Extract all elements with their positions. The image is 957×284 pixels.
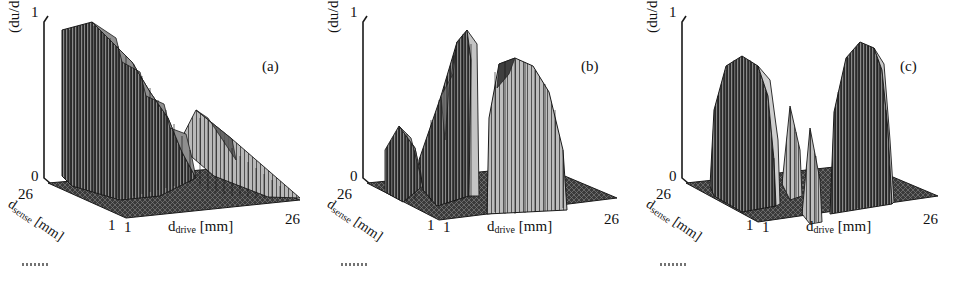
scan-artifact-mark-b bbox=[341, 263, 367, 266]
panel-a-drive-tick-left: 1 bbox=[124, 219, 132, 236]
panel-c: (du/dt)max 1 0 26 dsense [mm] 1 1 26 ddr… bbox=[638, 0, 957, 284]
scan-artifact-mark-c bbox=[660, 263, 686, 266]
scan-artifact-mark bbox=[22, 263, 48, 266]
three-panel-surface-figure: (du/dt)max 1 0 26 dsense [mm] 1 1 26 ddr… bbox=[0, 0, 957, 284]
panel-b: (du/dt)max 1 0 26 dsense [mm] 1 1 26 ddr… bbox=[319, 0, 638, 284]
panel-a-drive-axis-label: ddrive [mm] bbox=[168, 218, 233, 235]
panel-a-sense-tick-far: 1 bbox=[108, 217, 116, 234]
panel-a-surface bbox=[0, 0, 319, 284]
panel-c-surface bbox=[638, 0, 957, 284]
panel-c-drive-tick-left: 1 bbox=[762, 219, 770, 236]
panel-c-sense-tick-far: 1 bbox=[746, 217, 754, 234]
panel-a: (du/dt)max 1 0 26 dsense [mm] 1 1 26 ddr… bbox=[0, 0, 319, 284]
panel-c-drive-axis-label: ddrive [mm] bbox=[806, 218, 871, 235]
panel-a-drive-tick-right: 26 bbox=[285, 211, 300, 228]
panel-c-letter: (c) bbox=[900, 58, 917, 75]
panel-b-letter: (b) bbox=[581, 58, 599, 75]
panel-a-y-tick-min: 0 bbox=[31, 168, 39, 185]
panel-c-y-tick-min: 0 bbox=[669, 168, 677, 185]
panel-b-y-tick-max: 1 bbox=[350, 4, 358, 21]
panel-c-y-tick-max: 1 bbox=[669, 4, 677, 21]
panel-a-y-axis-label: (du/dt)max bbox=[6, 0, 23, 58]
panel-b-drive-tick-right: 26 bbox=[604, 211, 619, 228]
panel-b-drive-tick-left: 1 bbox=[443, 219, 451, 236]
panel-a-letter: (a) bbox=[262, 58, 279, 75]
panel-b-drive-axis-label: ddrive [mm] bbox=[487, 218, 552, 235]
panel-b-sense-tick-far: 1 bbox=[427, 217, 435, 234]
panel-a-y-tick-max: 1 bbox=[31, 4, 39, 21]
panel-c-y-axis-label: (du/dt)max bbox=[644, 0, 661, 58]
panel-b-surface bbox=[319, 0, 638, 284]
panel-b-y-tick-min: 0 bbox=[350, 168, 358, 185]
panel-b-y-axis-label: (du/dt)max bbox=[325, 0, 342, 58]
panel-c-drive-tick-right: 26 bbox=[923, 211, 938, 228]
